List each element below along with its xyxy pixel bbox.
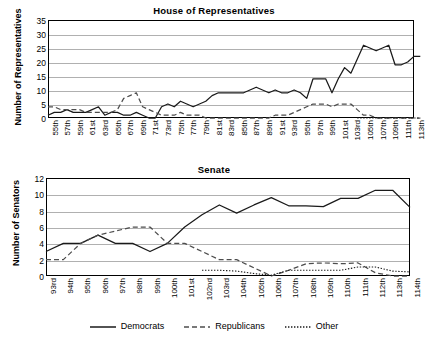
- x-axis-tick-label: 107th: [292, 278, 300, 298]
- y-axis-tick-label: 25: [37, 45, 46, 54]
- legend-swatch-dashed-icon: [184, 323, 210, 331]
- house-series-layer: [48, 20, 414, 118]
- x-axis-tick-label: 77th: [190, 120, 198, 136]
- x-axis-tick-label: 65th: [115, 120, 123, 136]
- x-axis-tick-label: 98th: [136, 278, 144, 294]
- x-axis-tick-label: 112th: [379, 278, 387, 297]
- x-axis-tick-label: 111th: [405, 120, 413, 139]
- y-axis-tick-label: 0: [39, 273, 44, 282]
- x-axis-tick-label: 91st: [279, 120, 287, 135]
- x-axis-tick-label: 71st: [152, 120, 160, 135]
- x-axis-tick-label: 100th: [171, 278, 179, 298]
- senate-chart-title: Senate: [0, 164, 428, 175]
- x-axis-tick-label: 108th: [310, 278, 318, 298]
- series-line-democrats: [46, 190, 410, 251]
- x-axis-tick-label: 109th: [392, 120, 400, 140]
- x-axis-tick-label: 113th: [396, 278, 404, 297]
- chart-legend: DemocratsRepublicansOther: [0, 322, 428, 331]
- x-axis-tick-label: 83rd: [228, 120, 236, 136]
- x-axis-tick-label: 96th: [102, 278, 110, 294]
- legend-label: Republicans: [215, 322, 265, 331]
- senate-x-axis-ticks: 93rd94th95th96th97th98th99th100th101st10…: [46, 276, 410, 318]
- x-axis-tick-label: 57th: [64, 120, 72, 136]
- x-axis-tick-label: 63rd: [102, 120, 110, 136]
- chart-page: House of Representatives Number of Repre…: [0, 0, 428, 348]
- y-axis-tick-label: 15: [37, 73, 46, 82]
- senate-chart-panel: Senate Number of Senators 024681012 93rd…: [0, 160, 428, 318]
- legend-label: Democrats: [121, 322, 165, 331]
- x-axis-tick-label: 105th: [258, 278, 266, 298]
- y-axis-tick-label: 12: [35, 175, 44, 184]
- x-axis-tick-label: 103rd: [354, 120, 362, 140]
- y-axis-tick-label: 8: [39, 207, 44, 216]
- x-axis-tick-label: 102nd: [206, 278, 214, 300]
- x-axis-tick-label: 104th: [240, 278, 248, 298]
- x-axis-tick-label: 93rd: [50, 278, 58, 294]
- x-axis-tick-label: 105th: [367, 120, 375, 140]
- x-axis-tick-label: 59th: [77, 120, 85, 136]
- x-axis-tick-label: 109th: [327, 278, 335, 298]
- x-axis-tick-label: 106th: [275, 278, 283, 298]
- house-chart-title: House of Representatives: [0, 5, 428, 16]
- x-axis-tick-label: 111th: [362, 278, 370, 297]
- y-axis-tick-label: 6: [39, 224, 44, 233]
- x-axis-tick-label: 107th: [380, 120, 388, 140]
- house-plot-wrapper: 05101520253035 55th57th59th61st63rd65th6…: [48, 20, 414, 118]
- series-line-democrats: [48, 45, 420, 118]
- x-axis-tick-label: 99th: [329, 120, 337, 136]
- x-axis-tick-label: 95th: [84, 278, 92, 294]
- senate-series-layer: [46, 178, 410, 276]
- x-axis-tick-label: 113th: [418, 120, 426, 139]
- x-axis-tick-label: 94th: [67, 278, 75, 294]
- x-axis-tick-label: 97th: [119, 278, 127, 294]
- x-axis-tick-label: 99th: [154, 278, 162, 294]
- y-axis-tick-label: 35: [37, 17, 46, 26]
- x-axis-tick-label: 103rd: [223, 278, 231, 298]
- legend-swatch-solid-icon: [90, 323, 116, 331]
- x-axis-tick-label: 101st: [188, 278, 196, 298]
- x-axis-tick-label: 81st: [216, 120, 224, 135]
- x-axis-tick-label: 95th: [304, 120, 312, 136]
- x-axis-tick-label: 69th: [140, 120, 148, 136]
- x-axis-tick-label: 93rd: [291, 120, 299, 136]
- x-axis-tick-label: 114th: [414, 278, 422, 297]
- x-axis-tick-label: 87th: [253, 120, 261, 136]
- x-axis-tick-label: 97th: [317, 120, 325, 136]
- x-axis-tick-label: 89th: [266, 120, 274, 136]
- x-axis-tick-label: 73rd: [165, 120, 173, 136]
- legend-item-democrats: Democrats: [90, 322, 165, 331]
- y-axis-tick-label: 0: [41, 115, 46, 124]
- y-axis-tick-label: 10: [37, 87, 46, 96]
- x-axis-tick-label: 61st: [89, 120, 97, 135]
- house-x-axis-ticks: 55th57th59th61st63rd65th67th69th71st73rd…: [48, 118, 414, 160]
- legend-item-republicans: Republicans: [184, 322, 265, 331]
- series-line-republicans: [46, 227, 410, 276]
- senate-plot-wrapper: 024681012 93rd94th95th96th97th98th99th10…: [46, 178, 410, 276]
- senate-y-axis-label: Number of Senators: [11, 173, 21, 273]
- y-axis-tick-label: 2: [39, 256, 44, 265]
- house-chart-panel: House of Representatives Number of Repre…: [0, 0, 428, 160]
- y-axis-tick-label: 20: [37, 59, 46, 68]
- y-axis-tick-label: 10: [35, 191, 44, 200]
- legend-item-other: Other: [285, 322, 339, 331]
- house-y-axis-label: Number of Representatives: [13, 7, 23, 127]
- x-axis-tick-label: 79th: [203, 120, 211, 136]
- y-axis-tick-label: 4: [39, 240, 44, 249]
- x-axis-tick-label: 67th: [127, 120, 135, 136]
- x-axis-tick-label: 101st: [342, 120, 350, 140]
- x-axis-tick-label: 85th: [241, 120, 249, 136]
- x-axis-tick-label: 55th: [52, 120, 60, 136]
- y-axis-tick-label: 5: [41, 101, 46, 110]
- y-axis-tick-label: 30: [37, 31, 46, 40]
- legend-swatch-dotted-icon: [285, 323, 311, 331]
- legend-label: Other: [316, 322, 339, 331]
- x-axis-tick-label: 110th: [344, 278, 352, 297]
- x-axis-tick-label: 75th: [178, 120, 186, 136]
